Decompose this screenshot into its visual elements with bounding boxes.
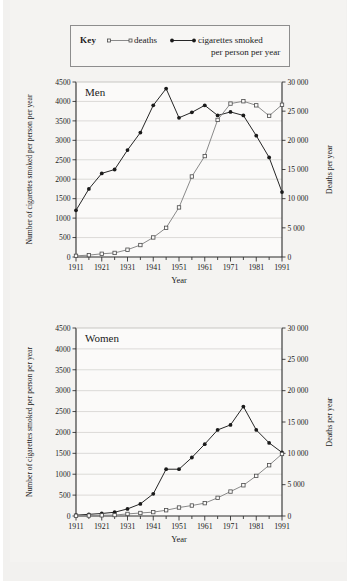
- data-point-cigarettes: [254, 134, 258, 138]
- data-point-deaths: [280, 452, 283, 455]
- page-background: Key deaths cigarettes smoked per person …: [0, 0, 350, 581]
- data-point-deaths: [267, 114, 270, 117]
- y-tick-label-left: 500: [59, 491, 71, 500]
- chart-women-svg: 05001000150020002500300035004000450005 0…: [10, 318, 346, 556]
- legend-deaths-label: deaths: [134, 35, 157, 45]
- panel-title: Women: [85, 332, 119, 344]
- x-tick-label: 1991: [274, 263, 290, 272]
- data-point-cigarettes: [87, 187, 91, 191]
- data-point-deaths: [280, 103, 283, 106]
- panel-title: Men: [85, 86, 106, 98]
- data-point-deaths: [242, 100, 245, 103]
- legend-cigarettes-sample-icon: [170, 36, 196, 45]
- y-tick-label-right: 30 000: [288, 324, 309, 333]
- data-point-deaths: [113, 513, 116, 516]
- y-tick-label-left: 0: [67, 512, 71, 521]
- data-point-deaths: [216, 118, 219, 121]
- data-point-deaths: [139, 511, 142, 514]
- data-point-cigarettes: [100, 171, 104, 175]
- x-tick-label: 1941: [145, 522, 161, 531]
- data-point-cigarettes: [216, 428, 220, 432]
- y-tick-label-right: 5 000: [288, 224, 305, 233]
- y-tick-label-right: 20 000: [288, 136, 309, 145]
- data-point-deaths: [164, 509, 167, 512]
- data-point-deaths: [74, 254, 77, 257]
- data-point-cigarettes: [241, 114, 245, 118]
- x-axis-title: Year: [171, 275, 187, 285]
- legend-key-label: Key: [80, 35, 96, 45]
- y-axis-title-left: Number of cigarettes smoked per person p…: [25, 347, 34, 497]
- data-point-deaths: [113, 251, 116, 254]
- y-tick-label-right: 10 000: [288, 194, 309, 203]
- y-tick-label-left: 4500: [55, 324, 70, 333]
- y-tick-label-left: 4000: [55, 97, 70, 106]
- x-axis-title: Year: [171, 534, 187, 544]
- data-point-deaths: [229, 490, 232, 493]
- y-tick-label-left: 500: [59, 233, 71, 242]
- x-tick-label: 1921: [94, 263, 110, 272]
- legend-cigarettes-label-line1: cigarettes smoked: [198, 35, 263, 45]
- y-tick-label-left: 3000: [55, 386, 70, 395]
- y-tick-label-right: 10 000: [288, 449, 309, 458]
- x-tick-label: 1931: [120, 522, 136, 531]
- x-tick-label: 1911: [68, 522, 83, 531]
- y-tick-label-right: 30 000: [288, 78, 309, 87]
- data-point-deaths: [216, 496, 219, 499]
- y-tick-label-left: 2500: [55, 156, 70, 165]
- data-point-cigarettes: [126, 148, 130, 152]
- data-point-deaths: [242, 484, 245, 487]
- y-axis-title-right: Deaths per year: [325, 397, 334, 446]
- x-tick-label: 1981: [248, 263, 264, 272]
- data-point-deaths: [100, 514, 103, 517]
- data-point-cigarettes: [229, 110, 233, 114]
- data-point-cigarettes: [229, 423, 233, 427]
- y-tick-label-left: 1000: [55, 470, 70, 479]
- data-point-cigarettes: [138, 502, 142, 506]
- x-tick-label: 1931: [120, 263, 136, 272]
- data-point-cigarettes: [241, 405, 245, 409]
- y-tick-label-right: 25 000: [288, 355, 309, 364]
- data-point-deaths: [152, 236, 155, 239]
- x-tick-label: 1971: [223, 522, 239, 531]
- data-point-deaths: [267, 464, 270, 467]
- x-tick-label: 1961: [197, 263, 213, 272]
- paper-sheet: Key deaths cigarettes smoked per person …: [10, 0, 346, 562]
- y-tick-label-left: 2500: [55, 407, 70, 416]
- legend-cigarettes-label-line2: per person per year: [211, 47, 280, 57]
- x-tick-label: 1961: [197, 522, 213, 531]
- data-point-deaths: [177, 206, 180, 209]
- y-tick-label-left: 3500: [55, 366, 70, 375]
- data-point-cigarettes: [190, 110, 194, 114]
- legend-deaths-sample-icon: [107, 36, 133, 45]
- data-point-deaths: [152, 510, 155, 513]
- y-tick-label-left: 0: [67, 253, 71, 262]
- data-point-cigarettes: [267, 441, 271, 445]
- y-tick-label-right: 15 000: [288, 418, 309, 427]
- data-point-deaths: [87, 253, 90, 256]
- plot-area: [76, 328, 282, 516]
- data-point-cigarettes: [164, 87, 168, 91]
- y-tick-label-right: 20 000: [288, 386, 309, 395]
- y-tick-label-right: 5 000: [288, 480, 305, 489]
- data-point-cigarettes: [177, 467, 181, 471]
- data-point-cigarettes: [203, 103, 207, 107]
- y-tick-label-left: 1500: [55, 449, 70, 458]
- chart-legend: Key deaths cigarettes smoked per person …: [70, 25, 290, 67]
- data-point-deaths: [190, 175, 193, 178]
- data-point-deaths: [100, 252, 103, 255]
- data-point-cigarettes: [138, 131, 142, 135]
- data-point-deaths: [126, 512, 129, 515]
- y-tick-label-left: 4000: [55, 345, 70, 354]
- data-point-deaths: [255, 474, 258, 477]
- y-tick-label-left: 4500: [55, 78, 70, 87]
- data-point-cigarettes: [267, 156, 271, 160]
- y-axis-title-right: Deaths per year: [325, 145, 334, 194]
- data-point-cigarettes: [254, 428, 258, 432]
- data-point-cigarettes: [280, 190, 284, 194]
- x-tick-label: 1951: [171, 522, 187, 531]
- data-point-cigarettes: [216, 114, 220, 118]
- x-tick-label: 1981: [248, 522, 264, 531]
- data-point-deaths: [177, 506, 180, 509]
- data-point-deaths: [229, 102, 232, 105]
- data-point-deaths: [203, 154, 206, 157]
